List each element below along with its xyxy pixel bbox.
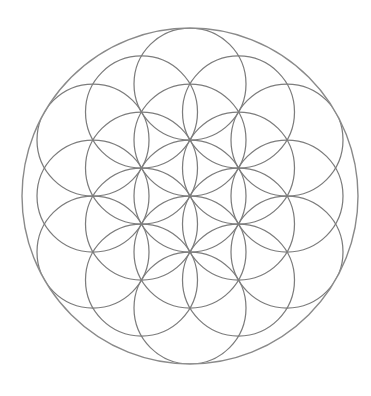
flower-of-life-diagram: Flower of Life Overlapping circles of eq… — [0, 0, 371, 396]
artwork-canvas: Flower of Life Overlapping circles of eq… — [0, 0, 371, 396]
background — [0, 0, 371, 396]
